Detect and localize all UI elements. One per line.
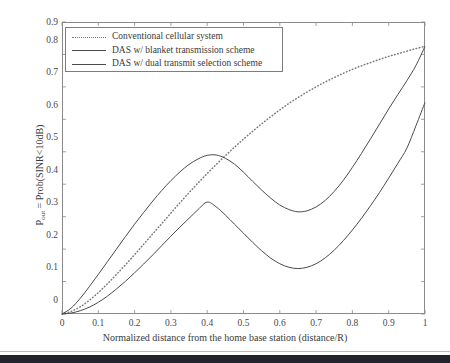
- page-bottom-bar: [0, 355, 450, 363]
- x-tick-label: 0.8: [346, 318, 358, 328]
- x-tick-label: 0.5: [238, 318, 250, 328]
- x-tick-label: 0.4: [201, 318, 213, 328]
- series-line-1: [62, 46, 425, 314]
- x-tick-label: 0.6: [274, 318, 286, 328]
- series-line-0: [62, 46, 425, 314]
- x-tick-label: 0.1: [92, 318, 104, 328]
- legend-item-conventional[interactable]: Conventional cellular system: [66, 30, 282, 44]
- x-tick-label: 0.7: [310, 318, 322, 328]
- data-series-group: [62, 46, 425, 314]
- legend-label: Conventional cellular system: [112, 31, 223, 42]
- x-axis-label: Normalized distance from the home base s…: [0, 332, 450, 343]
- x-tick-label: 0.9: [383, 318, 395, 328]
- y-axis-label: Pout = Prob(SINR<10dB): [34, 125, 47, 226]
- x-tick-label: 0.3: [165, 318, 177, 328]
- legend-label: DAS w/ dual transmit selection scheme: [112, 58, 262, 69]
- x-tick-label: 0: [60, 318, 65, 328]
- legend-swatch-solid-icon: [70, 59, 108, 69]
- x-tick-label: 0.2: [129, 318, 141, 328]
- chart-legend[interactable]: Conventional cellular system DAS w/ blan…: [65, 27, 283, 72]
- y-axis-label-wrapper: Pout = Prob(SINR<10dB): [33, 29, 47, 321]
- legend-item-das-dual-transmit[interactable]: DAS w/ dual transmit selection scheme: [66, 57, 282, 71]
- legend-label: DAS w/ blanket transmission scheme: [112, 45, 254, 56]
- series-line-2: [62, 102, 425, 314]
- x-axis-tick-labels: 0 0.1 0.2 0.3 0.4 0.5 0.6 0.7 0.8 0.9 1: [0, 318, 450, 332]
- page-divider-rule: [0, 351, 450, 352]
- x-tick-label: 1: [423, 318, 428, 328]
- legend-swatch-solid-icon: [70, 45, 108, 55]
- legend-item-das-blanket[interactable]: DAS w/ blanket transmission scheme: [66, 44, 282, 58]
- legend-swatch-dotted-icon: [70, 32, 108, 42]
- figure-container: 0 0.1 0.2 0.3 0.4 0.5 0.6 0.7 0.8 0.9 Po…: [0, 0, 450, 363]
- y-tick-label: 0.9: [32, 17, 58, 27]
